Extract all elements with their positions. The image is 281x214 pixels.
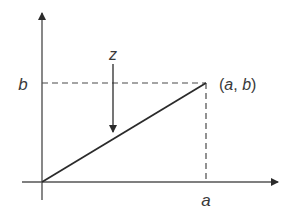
label-b: b [18, 75, 27, 94]
point-b: b [242, 76, 251, 93]
vector-line [42, 83, 206, 182]
point-close-paren: ) [251, 76, 256, 93]
label-point-ab: (a, b) [219, 76, 256, 93]
label-a: a [201, 191, 210, 210]
point-separator: , [233, 76, 242, 93]
label-z: z [108, 46, 117, 63]
point-a: a [224, 76, 233, 93]
coordinate-diagram: z b a (a, b) [0, 0, 281, 214]
